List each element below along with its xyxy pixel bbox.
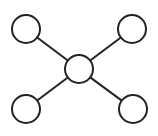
edge-center-bottom-left xyxy=(37,77,68,100)
edge-center-top-right xyxy=(90,37,121,60)
node-bottom-left xyxy=(12,95,40,123)
edge-center-bottom-right xyxy=(90,77,122,100)
node-top-right xyxy=(118,15,146,43)
node-center xyxy=(65,55,93,83)
node-bottom-right xyxy=(119,95,147,123)
diagram-nodes xyxy=(12,15,147,123)
node-top-left xyxy=(12,15,40,43)
network-hub-diagram xyxy=(0,0,158,136)
edge-center-top-left xyxy=(37,37,68,60)
